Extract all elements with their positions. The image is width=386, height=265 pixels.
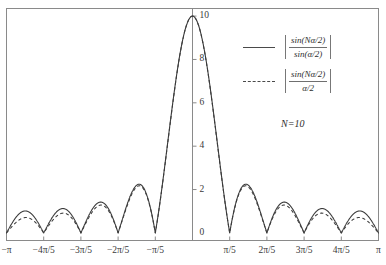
- plot-figure: −π−4π/5−3π/5−2π/5−π/5π/52π/53π/54π/5π 02…: [0, 0, 386, 265]
- y-tick-label: 8: [200, 55, 205, 65]
- y-tick-label: 4: [200, 141, 205, 151]
- annotation-n-value: N=10: [281, 118, 304, 129]
- legend-formula-sinc-approx: sin(Nα/2) α/2: [282, 69, 334, 92]
- legend-denominator-solid: sin(α/2): [292, 48, 324, 59]
- y-tick-label: 2: [200, 185, 205, 195]
- legend-formula-array-factor: sin(Nα/2) sin(α/2): [282, 35, 334, 58]
- y-tick-label: 0: [200, 228, 205, 238]
- abs-bar-left: [285, 69, 286, 92]
- abs-bar-right: [330, 69, 331, 92]
- x-tick-label: −π/5: [147, 246, 165, 256]
- x-tick-label: −4π/5: [33, 246, 55, 256]
- x-tick-label: 3π/5: [296, 246, 313, 256]
- abs-bar-right: [330, 35, 331, 58]
- x-tick-label: 4π/5: [333, 246, 350, 256]
- x-tick-label: −π: [1, 246, 11, 256]
- legend-line-sample-solid: [243, 42, 275, 52]
- x-tick-label: −3π/5: [70, 246, 92, 256]
- legend-entry-solid: sin(Nα/2) sin(α/2): [243, 30, 375, 64]
- abs-bar-left: [285, 35, 286, 58]
- legend-numerator-solid: sin(Nα/2): [289, 35, 327, 47]
- legend-denominator-dashed: α/2: [300, 82, 316, 93]
- y-tick-label: 10: [200, 11, 210, 21]
- x-tick-label: π/5: [224, 246, 236, 256]
- y-tick-label: 6: [200, 98, 205, 108]
- x-tick-label: −2π/5: [107, 246, 129, 256]
- x-tick-label: 2π/5: [258, 246, 275, 256]
- legend-entry-dashed: sin(Nα/2) α/2: [243, 64, 375, 98]
- legend-line-sample-dashed: [243, 76, 275, 86]
- legend: sin(Nα/2) sin(α/2) sin(Nα/2) α/2: [243, 30, 375, 98]
- x-tick-label: π: [376, 246, 381, 256]
- legend-numerator-dashed: sin(Nα/2): [289, 69, 327, 81]
